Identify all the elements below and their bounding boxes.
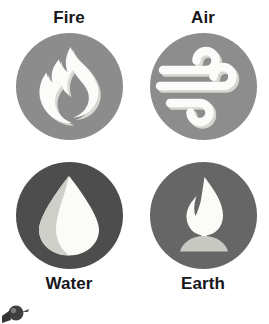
leaf-sprout-icon [171, 175, 235, 257]
element-card-air[interactable]: Air [136, 0, 269, 162]
element-disc-fire[interactable] [16, 33, 123, 140]
watermark-artifact [2, 300, 36, 324]
flame-icon [34, 45, 104, 129]
element-disc-earth[interactable] [150, 162, 257, 269]
element-disc-air[interactable] [150, 33, 257, 140]
element-disc-water[interactable] [16, 162, 123, 269]
element-label-earth: Earth [181, 275, 225, 292]
element-label-air: Air [191, 9, 215, 26]
element-label-fire: Fire [53, 9, 85, 26]
water-drop-icon [37, 175, 101, 257]
element-label-water: Water [45, 275, 92, 292]
wind-icon [160, 51, 246, 123]
elements-grid: Fire Air [0, 0, 269, 324]
element-card-earth[interactable]: Earth [136, 162, 269, 324]
element-card-fire[interactable]: Fire [2, 0, 136, 162]
